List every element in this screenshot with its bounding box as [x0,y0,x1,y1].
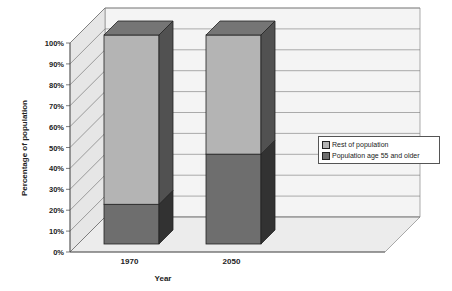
x-axis-title: Year [155,274,172,283]
bar-segment-front [104,204,159,244]
bar-segment-front [104,35,159,204]
y-axis-title: Percentage of population [20,100,29,196]
legend: Rest of population Population age 55 and… [318,136,440,164]
y-tick-label: 30% [49,185,64,194]
y-tick-label: 80% [49,81,64,90]
legend-swatch-rest [322,141,330,149]
y-tick-label: 100% [45,39,65,48]
bar-segment-side [261,140,275,244]
legend-item-55plus: Population age 55 and older [322,150,436,161]
y-tick-label: 50% [49,144,64,153]
bar-segment-front [206,35,261,154]
legend-item-rest: Rest of population [322,139,436,150]
y-tick-label: 20% [49,206,64,215]
bar-segment-side [159,21,173,204]
chart-container: 0%10%20%30%40%50%60%70%80%90%100%1970205… [0,0,452,291]
y-tick-label: 40% [49,164,64,173]
y-tick-label: 0% [53,248,64,257]
x-tick-label: 2050 [223,257,241,266]
y-tick-label: 10% [49,227,64,236]
y-tick-label: 70% [49,102,64,111]
bar-segment-side [261,21,275,154]
x-tick-label: 1970 [121,257,139,266]
y-tick-label: 90% [49,60,64,69]
y-tick-label: 60% [49,123,64,132]
bar-segment-front [206,154,261,244]
legend-swatch-55plus [322,152,330,160]
